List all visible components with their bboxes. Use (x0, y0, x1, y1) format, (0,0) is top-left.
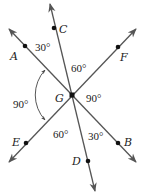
label-c: C (59, 23, 68, 36)
point-e (24, 141, 29, 146)
point-d (86, 159, 91, 164)
point-b (116, 141, 121, 146)
angle-label-cgf: 60° (71, 62, 86, 74)
label-g: G (55, 92, 64, 105)
angle-label-egd: 60° (53, 128, 68, 140)
angle-label-age: 90° (13, 98, 28, 110)
point-g (70, 93, 75, 98)
label-d: D (71, 155, 81, 168)
angle-label-fgb: 90° (86, 92, 101, 104)
angle-label-dgb: 30° (88, 130, 103, 142)
label-a: A (9, 50, 18, 63)
label-e: E (11, 136, 20, 149)
label-b: B (123, 136, 132, 149)
right-angle-arc (35, 70, 45, 120)
angle-diagram: A C F G E B D 30° 60° 90° 90° 60° 30° (0, 0, 147, 194)
angle-label-agc: 30° (35, 41, 50, 53)
point-f (116, 45, 121, 50)
point-a (23, 44, 28, 49)
label-f: F (119, 51, 128, 64)
point-c (52, 26, 57, 31)
